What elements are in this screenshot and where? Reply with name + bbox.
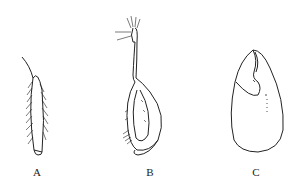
illustration-figure: A B C (0, 0, 305, 191)
panel-a-drawing (22, 57, 48, 155)
panel-label-a: A (27, 166, 47, 178)
panel-c-drawing (231, 50, 283, 152)
panel-b-drawing (115, 16, 162, 155)
panel-label-c: C (246, 166, 266, 178)
panel-label-b: B (140, 166, 160, 178)
line-drawings (0, 0, 305, 191)
